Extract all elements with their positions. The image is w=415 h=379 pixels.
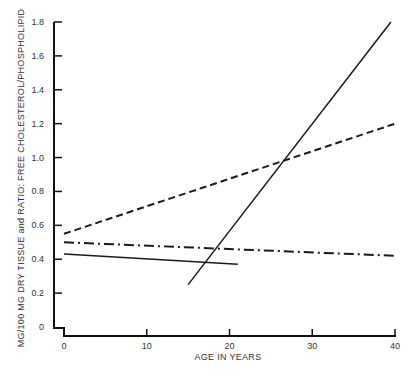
y-tick-label: 1.2 [31, 119, 44, 129]
y-tick-label: 1.6 [31, 51, 44, 61]
series-line-dashed [64, 124, 395, 234]
data-series [64, 22, 395, 285]
y-axis-title: MG/100 MG DRY TISSUE and RATIO: FREE CHO… [16, 8, 26, 347]
x-tick-label: 10 [142, 341, 152, 351]
x-tick-label: 40 [390, 341, 400, 351]
y-tick-label: 0.2 [31, 288, 44, 298]
y-axis-line [54, 22, 396, 336]
y-axis-ticks: 00.20.40.60.81.01.21.41.61.8 [31, 17, 62, 332]
y-tick-label: 0.8 [31, 186, 44, 196]
series-line-solid [188, 22, 391, 285]
y-tick-label: 1.0 [31, 153, 44, 163]
y-tick-label: 0.6 [31, 220, 44, 230]
x-axis-title: AGE IN YEARS [195, 352, 262, 362]
x-tick-label: 30 [307, 341, 317, 351]
x-axis-ticks: 010203040 [61, 329, 400, 351]
series-line-solid [64, 254, 238, 264]
y-tick-label: 1.8 [31, 17, 44, 27]
x-tick-label: 20 [224, 341, 234, 351]
x-tick-label: 0 [61, 341, 66, 351]
line-chart: 00.20.40.60.81.01.21.41.61.8 010203040 A… [0, 0, 415, 379]
y-tick-label: 1.4 [31, 85, 44, 95]
series-line-dash-dot [64, 242, 395, 256]
y-tick-label: 0.4 [31, 254, 44, 264]
y-tick-label: 0 [39, 322, 44, 332]
